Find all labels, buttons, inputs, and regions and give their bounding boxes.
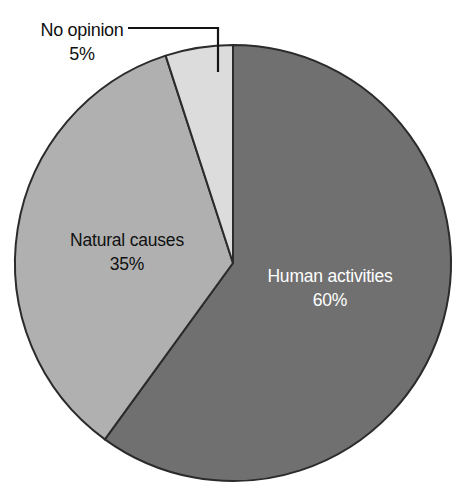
pie-chart-canvas: Human activities 60% Natural causes 35% …	[0, 0, 470, 498]
pie-chart-figure: Human activities 60% Natural causes 35% …	[0, 0, 470, 498]
slice-percent-no-opinion: 5%	[69, 44, 95, 64]
slice-label-no-opinion: No opinion	[40, 20, 123, 40]
slice-percent-human-activities: 60%	[313, 290, 347, 310]
slice-percent-natural-causes: 35%	[110, 254, 144, 274]
slice-label-human-activities: Human activities	[267, 266, 393, 286]
slice-label-natural-causes: Natural causes	[70, 230, 184, 250]
